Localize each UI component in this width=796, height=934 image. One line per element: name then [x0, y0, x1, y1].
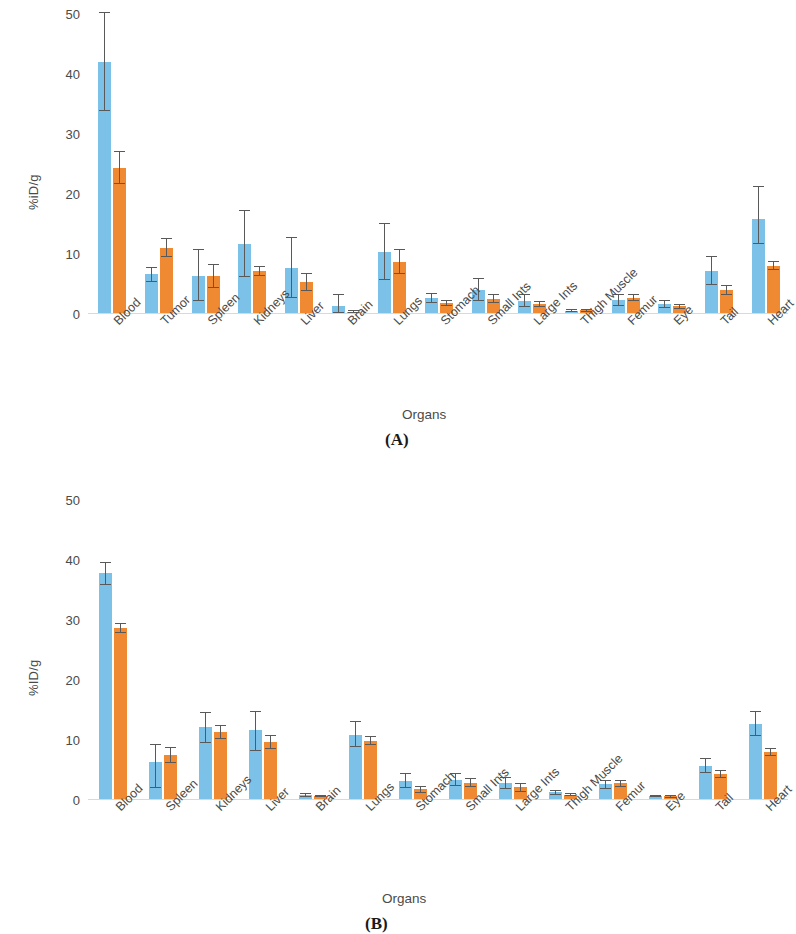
- error-cap-top: [114, 151, 125, 152]
- error-cap-bottom: [100, 584, 111, 585]
- error-cap-top: [193, 249, 204, 250]
- error-cap-top: [628, 294, 639, 295]
- error-cap-bottom: [400, 787, 411, 788]
- panel-a-x-axis-title: Organs: [402, 407, 446, 422]
- y-tick-label: 10: [66, 733, 80, 748]
- error-cap-top: [566, 309, 577, 310]
- error-cap-top: [165, 747, 176, 748]
- error-bar-stomach-series1: [431, 293, 432, 303]
- bar-blood-series1: [99, 573, 112, 800]
- bar-group: [398, 500, 429, 800]
- error-cap-bottom: [193, 300, 204, 301]
- error-cap-top: [350, 721, 361, 722]
- error-cap-bottom: [600, 788, 611, 789]
- bar-group: [564, 14, 593, 314]
- error-cap-top: [146, 267, 157, 268]
- error-cap-bottom: [628, 300, 639, 301]
- bar-group: [148, 500, 179, 800]
- bar-group: [348, 500, 379, 800]
- error-cap-top: [515, 783, 526, 784]
- error-bar-blood-series2: [119, 151, 120, 184]
- error-cap-bottom: [300, 796, 311, 797]
- error-cap-bottom: [721, 294, 732, 295]
- bar-blood-series2: [114, 628, 127, 800]
- error-cap-top: [215, 725, 226, 726]
- error-cap-bottom: [465, 786, 476, 787]
- error-cap-bottom: [379, 279, 390, 280]
- error-cap-top: [161, 238, 172, 239]
- error-bar-heart-series2: [770, 748, 771, 756]
- error-bar-liver-series2: [270, 735, 271, 749]
- bar-group: [648, 500, 679, 800]
- bar-group: [657, 14, 686, 314]
- error-bar-heart-series1: [755, 711, 756, 736]
- error-cap-top: [441, 300, 452, 301]
- panel-a-bars: [88, 14, 788, 314]
- error-cap-top: [265, 735, 276, 736]
- error-bar-kidneys-series2: [220, 725, 221, 739]
- error-bar-tail-series1: [705, 758, 706, 773]
- error-cap-top: [700, 758, 711, 759]
- error-cap-bottom: [768, 269, 779, 270]
- error-cap-bottom: [550, 794, 561, 795]
- error-cap-top: [753, 186, 764, 187]
- y-tick-label: 0: [73, 793, 80, 808]
- error-cap-bottom: [200, 742, 211, 743]
- y-tick-label: 40: [66, 553, 80, 568]
- error-bar-kidneys-series1: [205, 712, 206, 743]
- bar-group: [448, 500, 479, 800]
- error-bar-eye-series1: [664, 300, 665, 308]
- error-cap-top: [99, 12, 110, 13]
- error-bar-heart-series2: [773, 261, 774, 271]
- error-cap-bottom: [426, 302, 437, 303]
- y-tick-label: 30: [66, 613, 80, 628]
- bar-group: [97, 14, 126, 314]
- bar-group: [498, 500, 529, 800]
- error-cap-bottom: [301, 290, 312, 291]
- bar-group: [517, 14, 546, 314]
- error-bar-stomach-series2: [446, 300, 447, 307]
- error-cap-top: [200, 712, 211, 713]
- panel-a: %iD/g 01020304050 BloodTumorSpleenKidney…: [0, 0, 765, 466]
- error-cap-top: [286, 237, 297, 238]
- error-bar-spleen-series2: [170, 747, 171, 763]
- error-cap-bottom: [488, 302, 499, 303]
- error-bar-large-ints-series2: [539, 301, 540, 308]
- error-cap-bottom: [659, 307, 670, 308]
- error-bar-eye-series1: [655, 795, 656, 797]
- error-cap-bottom: [239, 276, 250, 277]
- panel-b: %ID/g 01020304050 BloodSpleenKidneysLive…: [0, 466, 765, 932]
- error-cap-bottom: [99, 110, 110, 111]
- error-cap-top: [488, 294, 499, 295]
- error-cap-bottom: [394, 273, 405, 274]
- error-cap-top: [465, 778, 476, 779]
- error-cap-top: [100, 562, 111, 563]
- error-cap-top: [400, 773, 411, 774]
- error-cap-top: [333, 294, 344, 295]
- error-cap-bottom: [500, 788, 511, 789]
- error-bar-lungs-series2: [399, 249, 400, 274]
- bar-group: [748, 500, 779, 800]
- error-cap-bottom: [254, 275, 265, 276]
- error-cap-top: [750, 711, 761, 712]
- error-cap-top: [239, 210, 250, 211]
- error-cap-top: [550, 790, 561, 791]
- error-bar-large-ints-series2: [520, 783, 521, 792]
- error-cap-top: [301, 273, 312, 274]
- error-bar-liver-series2: [306, 273, 307, 291]
- panel-b-bars: [88, 500, 788, 800]
- error-bar-blood-series1: [105, 562, 106, 585]
- error-cap-top: [208, 264, 219, 265]
- panel-b-plot-area: [88, 500, 788, 800]
- error-bar-spleen-series1: [198, 249, 199, 301]
- error-cap-top: [300, 793, 311, 794]
- bar-group: [548, 500, 579, 800]
- bar-group: [471, 14, 500, 314]
- error-cap-bottom: [165, 762, 176, 763]
- bar-group: [331, 14, 360, 314]
- y-tick-label: 20: [66, 673, 80, 688]
- error-bar-femur-series2: [620, 780, 621, 787]
- error-cap-bottom: [250, 750, 261, 751]
- bar-group: [198, 500, 229, 800]
